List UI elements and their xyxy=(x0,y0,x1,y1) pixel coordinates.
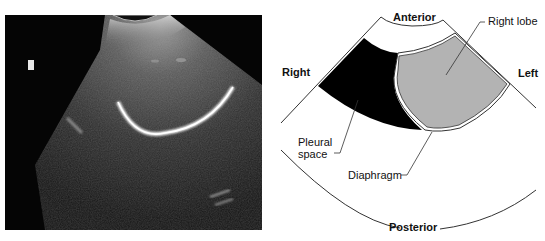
posterior-arc-left xyxy=(281,150,400,228)
ultrasound-image xyxy=(5,15,262,230)
diaphragm-leader xyxy=(401,132,432,175)
label-diaphragm: Diaphragm xyxy=(348,170,402,181)
label-anterior: Anterior xyxy=(393,12,436,23)
label-space: space xyxy=(298,149,327,160)
label-right-lobe: Right lobe xyxy=(488,16,538,27)
anatomy-diagram: Anterior Right lobe Right Left Pleural s… xyxy=(270,0,545,241)
ultrasound-scan xyxy=(5,15,262,230)
diagram-drawing xyxy=(270,0,545,241)
orientation-marker xyxy=(28,60,34,70)
label-right: Right xyxy=(282,67,310,78)
right-lobe-region xyxy=(397,36,507,128)
label-posterior: Posterior xyxy=(389,222,437,233)
posterior-arc-right xyxy=(440,190,536,229)
label-left: Left xyxy=(518,68,538,79)
label-pleural: Pleural xyxy=(298,137,332,148)
